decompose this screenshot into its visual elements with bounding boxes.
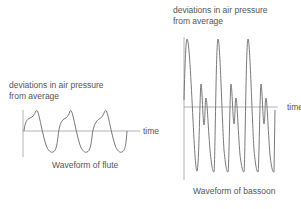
flute-axes bbox=[23, 110, 140, 157]
bassoon-waveform bbox=[184, 39, 275, 172]
waveform-graphics bbox=[0, 0, 301, 209]
